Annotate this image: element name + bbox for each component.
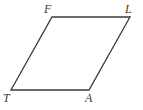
vertex-label-L: L xyxy=(125,3,132,15)
vertex-label-F: F xyxy=(44,3,51,15)
parallelogram-diagram xyxy=(0,0,143,110)
parallelogram-shape xyxy=(11,17,130,90)
vertex-label-A: A xyxy=(85,92,92,104)
figure-canvas: F L T A xyxy=(0,0,143,110)
vertex-label-T: T xyxy=(3,92,10,104)
